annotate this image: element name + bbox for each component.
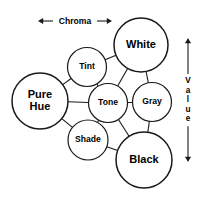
value-axis-arrow-down-icon [185,157,191,162]
value-axis-label-char-4: e [186,114,191,123]
node-pure-hue[interactable]: PureHue [12,73,68,129]
chroma-axis-arrow-left-icon [38,18,43,24]
connector-white-to-tone [118,68,128,86]
node-gray[interactable]: Gray [133,83,172,122]
connector-shade-to-black [107,147,118,151]
node-label-tone: Tone [98,97,118,107]
value-axis-arrow-up-icon [185,38,191,43]
connector-pure-hue-to-tone [68,102,89,103]
value-axis-label-char-0: V [185,76,191,85]
node-label-shade: Shade [75,134,101,144]
diagram-canvas: PureHueTintWhiteToneGrayShadeBlack Chrom… [0,0,201,203]
color-theory-diagram: PureHueTintWhiteToneGrayShadeBlack Chrom… [0,0,201,203]
connector-tint-to-white [105,55,116,59]
node-black[interactable]: Black [116,132,172,188]
nodes-group: PureHueTintWhiteToneGrayShadeBlack [12,18,172,188]
node-label-pure-hue-line1: Pure [28,88,52,100]
connector-pure-hue-to-shade [62,119,73,128]
connector-white-to-gray [146,72,148,83]
chroma-axis: Chroma [38,16,112,26]
node-label-black: Black [129,153,159,165]
node-label-pure-hue-line2: Hue [30,100,51,112]
node-tint[interactable]: Tint [68,48,107,87]
node-label-white: White [126,38,156,50]
node-white[interactable]: White [114,18,168,72]
value-axis: Value [185,38,191,162]
chroma-axis-label: Chroma [59,16,92,26]
value-axis-label-char-2: l [187,95,189,104]
node-tone[interactable]: Tone [89,84,128,123]
chroma-axis-arrow-right-icon [107,18,112,24]
connector-gray-to-black [148,121,150,132]
node-shade[interactable]: Shade [68,120,108,160]
value-axis-label-char-1: a [186,86,191,95]
node-label-gray: Gray [142,96,162,106]
value-axis-label-char-3: u [185,105,190,114]
connector-tone-to-black [118,119,129,136]
connector-pure-hue-to-tint [63,78,72,84]
node-label-tint: Tint [79,61,95,71]
